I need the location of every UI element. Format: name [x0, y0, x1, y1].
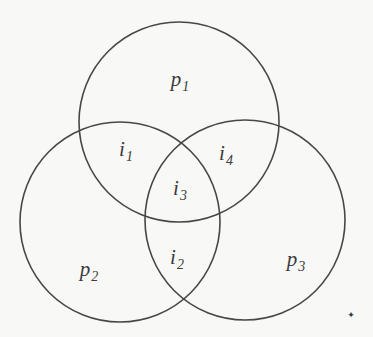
- label-p1: p1: [171, 69, 190, 90]
- label-i1: i1: [119, 139, 133, 160]
- label-i3-base: i: [173, 176, 179, 200]
- label-p1-sub: 1: [182, 79, 189, 94]
- label-i1-sub: 1: [126, 149, 133, 164]
- label-i4-base: i: [219, 141, 225, 165]
- label-i3-sub: 3: [180, 188, 187, 203]
- label-i2: i2: [170, 247, 184, 268]
- label-p1-base: p: [171, 67, 182, 91]
- circle-p3: [145, 120, 345, 320]
- label-i4: i4: [219, 143, 233, 164]
- label-i1-base: i: [119, 137, 125, 161]
- label-i3: i3: [173, 178, 187, 199]
- artifact-star-icon: ✦: [347, 311, 355, 320]
- venn-diagram: p1 p2 p3 i1 i4 i3 i2 ✦: [0, 0, 373, 337]
- label-p3-base: p: [287, 247, 298, 271]
- label-p2-base: p: [80, 257, 91, 281]
- label-p3-sub: 3: [298, 259, 305, 274]
- venn-circles-svg: [0, 0, 373, 337]
- label-p2-sub: 2: [91, 269, 98, 284]
- label-i2-base: i: [170, 245, 176, 269]
- label-p3: p3: [287, 249, 306, 270]
- label-i4-sub: 4: [226, 153, 233, 168]
- label-p2: p2: [80, 259, 99, 280]
- label-i2-sub: 2: [177, 257, 184, 272]
